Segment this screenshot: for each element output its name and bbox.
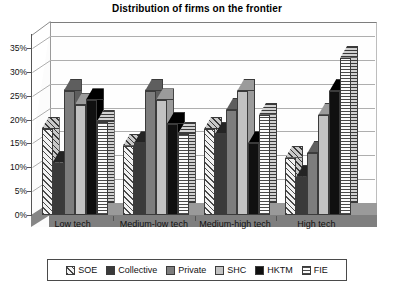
bar-shc-medium-high-tech xyxy=(237,91,248,215)
bar-private-medium-high-tech xyxy=(226,110,237,215)
y-tick-label: 35% xyxy=(0,44,27,53)
bar-face xyxy=(167,124,178,215)
bar-private-medium-low-tech xyxy=(145,91,156,215)
bar-face xyxy=(237,91,248,215)
bar-face xyxy=(75,105,86,215)
legend-swatch-hktm-icon xyxy=(255,266,264,275)
y-tick-label: 15% xyxy=(0,139,27,148)
bar-face xyxy=(226,110,237,215)
y-axis-labels: 0%5%10%15%20%25%30%35% xyxy=(0,0,27,248)
chart-root: Distribution of firms on the frontier 0%… xyxy=(0,0,394,292)
bar-side xyxy=(269,103,277,203)
chart-legend: SOECollectivePrivateSHCHKTMFIE xyxy=(47,259,347,281)
bar-soe-medium-low-tech xyxy=(123,146,134,215)
bar-shc-medium-low-tech xyxy=(156,100,167,215)
bar-private-low-tech xyxy=(64,91,75,215)
y-tick-mark xyxy=(27,48,31,49)
bar-face xyxy=(97,122,108,215)
bar-hktm-medium-low-tech xyxy=(167,124,178,215)
y-tick-label: 30% xyxy=(0,68,27,77)
bar-face xyxy=(86,100,97,215)
plot-area: 0%5%10%15%20%25%30%35% Low techMedium-lo… xyxy=(0,0,394,248)
y-tick-label: 20% xyxy=(0,116,27,125)
y-tick-mark xyxy=(27,215,31,216)
bar-face xyxy=(285,158,296,215)
legend-item-fie[interactable]: FIE xyxy=(302,266,328,275)
bar-side xyxy=(107,110,115,203)
legend-swatch-shc-icon xyxy=(215,266,224,275)
y-tick-label: 0% xyxy=(0,211,27,220)
bar-fie-medium-low-tech xyxy=(178,134,189,215)
plot-top-diagonal xyxy=(31,21,52,35)
bar-face xyxy=(215,134,226,215)
legend-item-shc[interactable]: SHC xyxy=(215,266,246,275)
legend-item-hktm[interactable]: HKTM xyxy=(255,266,293,275)
gridline xyxy=(50,84,375,85)
bar-face xyxy=(248,143,259,215)
bar-face xyxy=(156,100,167,215)
bar-face xyxy=(134,143,145,215)
bar-face xyxy=(204,129,215,215)
x-tick-label: Medium-low tech xyxy=(113,219,194,229)
bar-collective-medium-high-tech xyxy=(215,134,226,215)
bar-face xyxy=(296,177,307,215)
y-tick-label: 25% xyxy=(0,92,27,101)
bar-hktm-medium-high-tech xyxy=(248,143,259,215)
bar-hktm-high-tech xyxy=(329,91,340,215)
bar-fie-medium-high-tech xyxy=(259,115,270,215)
bar-collective-low-tech xyxy=(53,163,64,215)
bar-shc-low-tech xyxy=(75,105,86,215)
bar-collective-high-tech xyxy=(296,177,307,215)
gridline-connector xyxy=(32,60,52,74)
y-tick-mark xyxy=(27,167,31,168)
bar-private-high-tech xyxy=(307,153,318,215)
y-tick-label: 5% xyxy=(0,187,27,196)
bar-face xyxy=(145,91,156,215)
bar-soe-medium-high-tech xyxy=(204,129,215,215)
bar-side xyxy=(188,122,196,203)
legend-label: HKTM xyxy=(267,266,293,275)
legend-label: SOE xyxy=(78,266,97,275)
legend-item-private[interactable]: Private xyxy=(166,266,206,275)
legend-label: SHC xyxy=(227,266,246,275)
bar-side xyxy=(350,46,358,203)
y-tick-label: 10% xyxy=(0,163,27,172)
y-axis-line xyxy=(31,34,32,216)
bar-soe-low-tech xyxy=(42,129,53,215)
bar-face xyxy=(259,115,270,215)
bar-face xyxy=(42,129,53,215)
bar-face xyxy=(64,91,75,215)
legend-swatch-private-icon xyxy=(166,266,175,275)
y-tick-mark xyxy=(27,143,31,144)
gridline-connector xyxy=(32,36,52,50)
bar-face xyxy=(307,153,318,215)
gridline-connector xyxy=(32,84,52,98)
legend-item-soe[interactable]: SOE xyxy=(66,266,97,275)
bar-collective-medium-low-tech xyxy=(134,143,145,215)
y-tick-mark xyxy=(27,191,31,192)
bar-face xyxy=(123,146,134,215)
bar-fie-high-tech xyxy=(340,58,351,215)
bar-soe-high-tech xyxy=(285,158,296,215)
x-tick-label: High tech xyxy=(276,219,357,229)
x-tick-label: Medium-high tech xyxy=(195,219,276,229)
x-tick-label: Low tech xyxy=(32,219,113,229)
y-tick-mark xyxy=(27,72,31,73)
legend-swatch-fie-icon xyxy=(302,266,311,275)
bar-face xyxy=(340,58,351,215)
y-tick-mark xyxy=(27,96,31,97)
legend-item-collective[interactable]: Collective xyxy=(106,266,157,275)
gridline xyxy=(50,36,375,37)
legend-swatch-collective-icon xyxy=(106,266,115,275)
legend-label: Private xyxy=(178,266,206,275)
bar-fie-low-tech xyxy=(97,122,108,215)
bar-face xyxy=(53,163,64,215)
legend-label: Collective xyxy=(118,266,157,275)
legend-swatch-soe-icon xyxy=(66,266,75,275)
y-tick-mark xyxy=(27,120,31,121)
bar-face xyxy=(329,91,340,215)
bar-face xyxy=(178,134,189,215)
gridline xyxy=(50,60,375,61)
bar-face xyxy=(318,115,329,215)
legend-label: FIE xyxy=(314,266,328,275)
